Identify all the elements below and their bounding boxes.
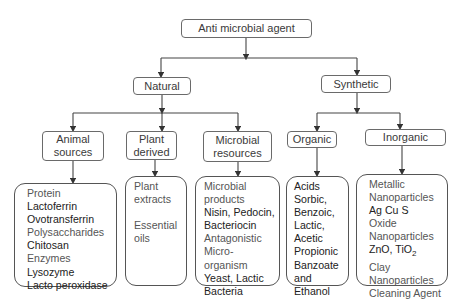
subscript-2: 2 (412, 250, 416, 259)
list-item: Chitosan (27, 239, 116, 252)
microbial-resources-label-1: Microbial (215, 134, 259, 147)
natural-node: Natural (133, 77, 191, 95)
animal-sources-label-2: sources (54, 146, 93, 159)
list-item: Banzoate (294, 259, 348, 272)
organic-label: Organic (293, 133, 332, 146)
root-node: Anti microbial agent (181, 19, 312, 38)
list-item: Yeast, Lactic (204, 272, 279, 285)
list-item: Nanoparticles (369, 274, 447, 287)
inorganic-node: Inorganic (365, 129, 446, 146)
animal-sources-node: Animal sources (42, 131, 104, 161)
list-item: organism (204, 259, 279, 272)
list-item: Bacteriocin (204, 219, 279, 232)
list-item: Acids (294, 180, 348, 193)
list-item: Polysaccharides (27, 226, 116, 239)
list-item: Microbial (204, 180, 279, 193)
plant-derived-label-1: Plant (139, 133, 164, 146)
synthetic-label: Synthetic (333, 78, 378, 91)
list-item: Enzymes (27, 252, 116, 265)
list-item: oils (134, 232, 186, 245)
organic-node: Organic (287, 131, 337, 148)
list-item: Sorbic, (294, 193, 348, 206)
list-item: Lacto peroxidase (27, 279, 116, 292)
list-item: Metallic (369, 178, 447, 191)
list-item: Protein (27, 187, 116, 200)
microbial-resources-node: Microbial resources (203, 131, 272, 162)
list-item: ZnO, TiO2 (369, 243, 447, 260)
zno-tio-text: ZnO, TiO (369, 243, 412, 255)
list-item: Nisin, Pedocin, (204, 206, 279, 219)
list-item: Benzoic, (294, 206, 348, 219)
list-item: Nanoparticles (369, 230, 447, 243)
animal-sources-list: Protein Lactoferrin Ovotransferrin Polys… (14, 183, 117, 287)
list-item: products (204, 193, 279, 206)
list-item: extracts (134, 193, 186, 206)
microbial-resources-label-2: resources (213, 147, 261, 160)
list-item: Clay (369, 261, 447, 274)
inorganic-list: Metallic Nanoparticles Ag Cu S Oxide Nan… (356, 174, 448, 286)
list-item: Lactoferrin (27, 200, 116, 213)
list-item: Oxide (369, 217, 447, 230)
list-item: Lactic, (294, 219, 348, 232)
synthetic-node: Synthetic (321, 75, 391, 93)
list-item: Propionic (294, 245, 348, 258)
root-label: Anti microbial agent (198, 22, 295, 35)
list-item: Micro- (204, 245, 279, 258)
plant-derived-node: Plant derived (126, 131, 177, 160)
list-item: Ovotransferrin (27, 213, 116, 226)
list-item: Ag Cu S (369, 204, 447, 217)
organic-list: Acids Sorbic, Benzoic, Lactic, Acetic Pr… (286, 176, 349, 286)
list-item: Essential (134, 219, 186, 232)
list-item: Bacteria (204, 285, 279, 298)
microbial-resources-list: Microbial products Nisin, Pedocin, Bacte… (195, 176, 280, 286)
list-item: Antagonistic (204, 232, 279, 245)
list-item: Acetic (294, 232, 348, 245)
list-item: Ethanol (294, 285, 348, 298)
natural-label: Natural (144, 80, 179, 93)
inorganic-label: Inorganic (383, 131, 428, 144)
list-item: Cleaning Agent (369, 287, 447, 300)
list-item: Lysozyme (27, 266, 116, 279)
plant-derived-list: Plant extracts Essential oils (125, 176, 187, 286)
animal-sources-label-1: Animal (56, 133, 90, 146)
plant-derived-label-2: derived (133, 146, 169, 159)
list-item: Nanoparticles (369, 191, 447, 204)
antimicrobial-agent-diagram: Anti microbial agent Natural Synthetic A… (0, 0, 459, 301)
list-item: and (294, 272, 348, 285)
list-item: Plant (134, 180, 186, 193)
list-spacer (134, 206, 186, 219)
